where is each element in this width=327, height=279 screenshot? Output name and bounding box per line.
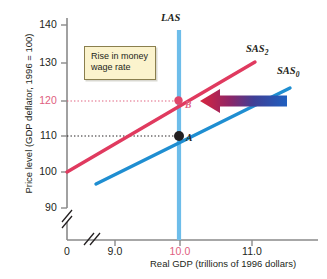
point-a-label: A — [186, 133, 192, 143]
annotation-line-2: wage rate — [91, 62, 150, 73]
annotation-line-1: Rise in money — [91, 51, 150, 62]
price-level-real-gdp-chart: 140 130 120 110 100 90 0 9.0 10.0 11.0 P… — [0, 0, 327, 279]
sas2-curve-label: SAS2 — [246, 43, 268, 57]
sas0-curve-label: SAS0 — [277, 65, 299, 79]
point-b-marker — [174, 96, 182, 104]
point-b-label: B — [185, 100, 191, 110]
sas0-label-text: SAS — [277, 65, 296, 76]
rise-in-money-wage-rate-annotation: Rise in money wage rate — [84, 46, 156, 80]
sas2-label-subscript: 2 — [265, 48, 269, 57]
x-axis-title: Real GDP (trillions of 1996 dollars) — [150, 258, 296, 269]
y-axis-title: Price level (GDP deflator, 1996 = 100) — [23, 24, 34, 204]
las-curve-label: LAS — [161, 12, 180, 23]
sas2-label-text: SAS — [246, 43, 265, 54]
x-tick-label-11: 11.0 — [232, 246, 272, 258]
x-tick-label-10: 10.0 — [160, 246, 200, 258]
y-tick-label-90: 90 — [27, 202, 57, 214]
x-axis-break-icon — [84, 233, 100, 245]
y-tick-marks — [61, 25, 67, 208]
x-tick-label-9: 9.0 — [95, 246, 135, 258]
sas0-label-subscript: 0 — [296, 70, 300, 79]
point-a-marker — [174, 131, 184, 141]
x-tick-label-0: 0 — [47, 246, 87, 258]
